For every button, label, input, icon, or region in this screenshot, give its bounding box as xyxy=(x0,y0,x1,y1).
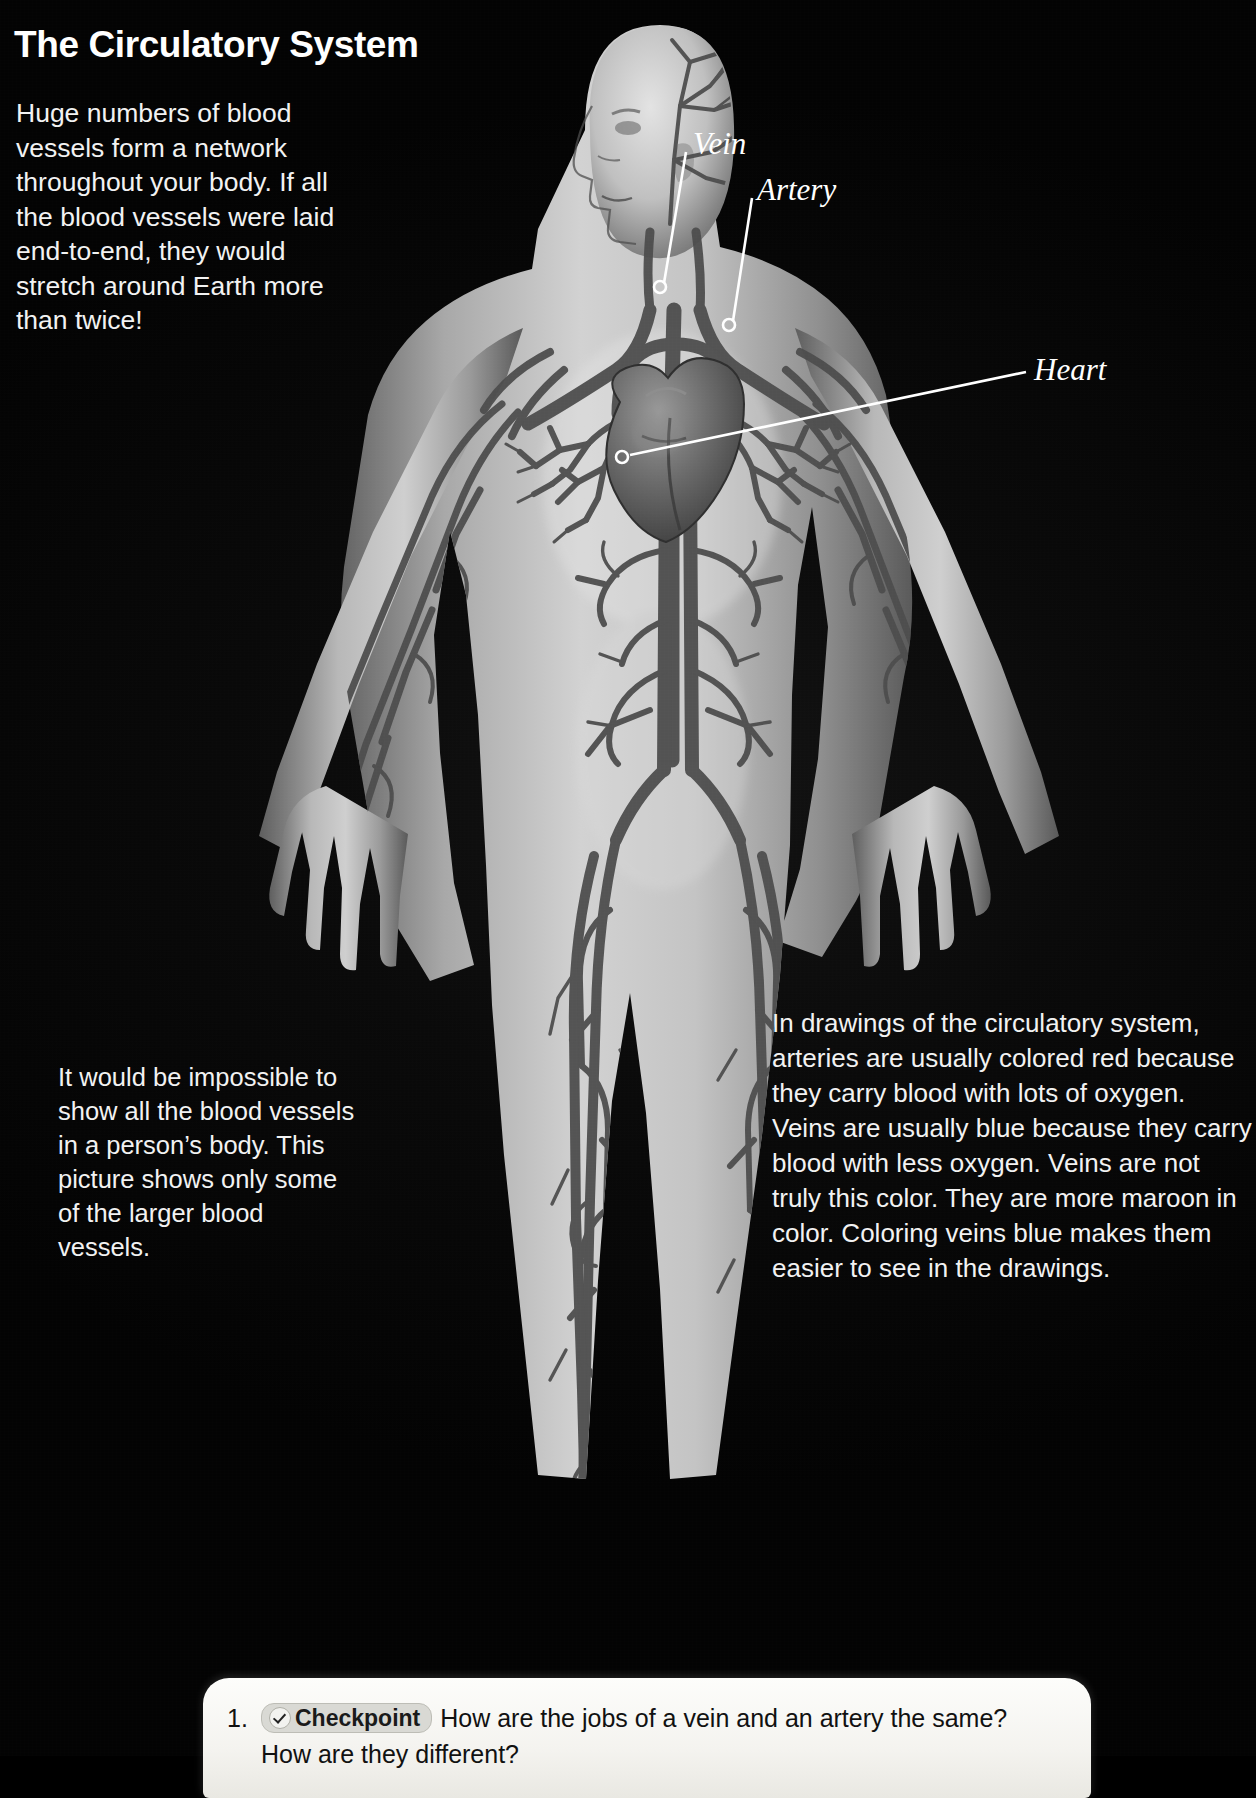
intro-paragraph: Huge numbers of blood vessels form a net… xyxy=(16,96,346,338)
checkmark-icon xyxy=(269,1707,291,1729)
callout-label-vein: Vein xyxy=(693,126,746,162)
checkpoint-badge: Checkpoint xyxy=(261,1703,432,1733)
page-title: The Circulatory System xyxy=(14,24,419,66)
checkpoint-number: 1. xyxy=(227,1700,261,1736)
checkpoint-box: 1.CheckpointHow are the jobs of a vein a… xyxy=(203,1678,1091,1798)
checkpoint-badge-label: Checkpoint xyxy=(295,1705,420,1731)
callout-label-artery: Artery xyxy=(757,172,836,208)
left-caption: It would be impossible to show all the b… xyxy=(58,1060,358,1264)
right-caption: In drawings of the circulatory system, a… xyxy=(772,1006,1252,1286)
callout-label-heart: Heart xyxy=(1034,352,1106,388)
